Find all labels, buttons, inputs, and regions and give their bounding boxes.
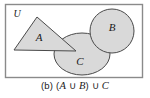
venn-diagram-figure: U A B C (b) (A ∪ B) ∪ C	[0, 0, 150, 98]
caption-union-icon-1: ∪	[69, 80, 76, 91]
caption-part-label: (b)	[41, 80, 53, 91]
caption-set-b: B	[79, 80, 86, 91]
set-c-label: C	[76, 55, 84, 67]
caption-set-c: C	[102, 80, 109, 91]
figure-caption: (b) (A ∪ B) ∪ C	[0, 80, 150, 91]
universe-label: U	[13, 8, 21, 19]
set-b-label: B	[109, 21, 116, 33]
set-a-label: A	[35, 31, 43, 43]
caption-union-icon-2: ∪	[92, 80, 99, 91]
